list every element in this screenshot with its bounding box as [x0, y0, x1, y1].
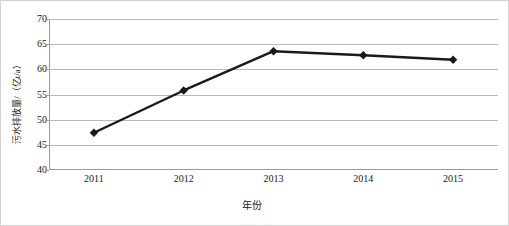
data-series-line: [49, 19, 498, 170]
data-point-marker: [180, 86, 188, 94]
data-point-marker: [359, 51, 367, 59]
y-axis-tick-label: 50: [23, 115, 47, 125]
y-axis-tick-labels: 40455055606570: [23, 19, 47, 170]
x-axis-tick-label: 2015: [423, 173, 483, 185]
y-axis-tick-mark: [45, 170, 49, 171]
y-axis-tick-label: 40: [23, 165, 47, 175]
x-axis-tick-label: 2013: [244, 173, 304, 185]
x-axis-tick-label: 2014: [333, 173, 393, 185]
y-axis-tick-label: 55: [23, 90, 47, 100]
x-axis-tick-label: 2011: [64, 173, 124, 185]
x-axis-tick-labels: 20112012201320142015: [49, 173, 498, 187]
y-axis-tick-mark: [45, 145, 49, 146]
chart-figure: 污水排放量/（亿t/a） 40455055606570 201120122013…: [0, 0, 509, 226]
x-axis-title: 年份: [1, 197, 509, 212]
y-axis-tick-label: 60: [23, 64, 47, 74]
y-axis-tick-mark: [45, 69, 49, 70]
series-polyline: [94, 51, 453, 133]
data-point-marker: [269, 47, 277, 55]
x-axis-tick-label: 2012: [154, 173, 214, 185]
data-point-marker: [90, 129, 98, 137]
y-axis-tick-mark: [45, 19, 49, 20]
y-axis-tick-mark: [45, 120, 49, 121]
y-axis-tick-label: 65: [23, 39, 47, 49]
y-axis-tick-mark: [45, 44, 49, 45]
data-point-marker: [449, 56, 457, 64]
y-axis-tick-label: 70: [23, 14, 47, 24]
y-axis-tick-label: 45: [23, 140, 47, 150]
y-axis-tick-mark: [45, 95, 49, 96]
plot-area: [49, 19, 498, 170]
